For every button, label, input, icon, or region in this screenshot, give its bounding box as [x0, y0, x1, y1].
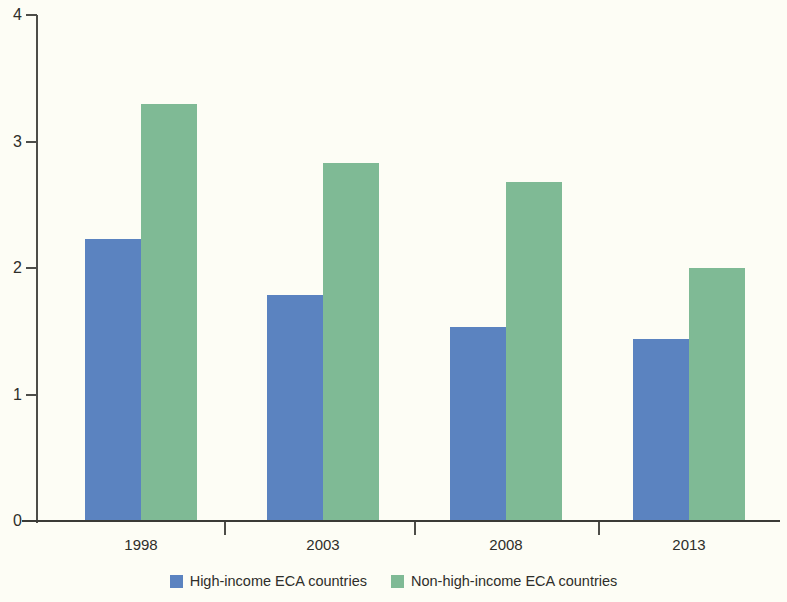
x-axis-tick	[598, 522, 600, 535]
legend-item[interactable]: Non-high-income ECA countries	[391, 574, 617, 589]
legend-label: Non-high-income ECA countries	[411, 574, 617, 589]
bar-group	[267, 15, 379, 521]
legend-swatch-icon	[391, 575, 404, 588]
x-axis-category-label: 2013	[629, 537, 749, 552]
bar-chart: 01234 1998200320082013 High-income ECA c…	[0, 0, 787, 602]
bar-group	[633, 15, 745, 521]
legend-item[interactable]: High-income ECA countries	[170, 574, 367, 589]
bars-layer	[0, 15, 787, 521]
legend-label: High-income ECA countries	[190, 574, 367, 589]
legend-swatch-icon	[170, 575, 183, 588]
bar	[506, 182, 562, 521]
bar-group	[450, 15, 562, 521]
x-axis-tick	[224, 522, 226, 535]
bar	[450, 327, 506, 521]
bar-group	[85, 15, 197, 521]
x-axis-category-label: 1998	[81, 537, 201, 552]
x-axis-tick	[414, 522, 416, 535]
chart-legend: High-income ECA countriesNon-high-income…	[0, 574, 787, 589]
bar	[85, 239, 141, 521]
x-axis-category-label: 2008	[446, 537, 566, 552]
bar	[267, 295, 323, 521]
bar	[141, 104, 197, 521]
bar	[633, 339, 689, 521]
x-axis-category-label: 2003	[263, 537, 383, 552]
bar	[323, 163, 379, 521]
bar	[689, 268, 745, 521]
x-axis-line	[22, 520, 780, 522]
